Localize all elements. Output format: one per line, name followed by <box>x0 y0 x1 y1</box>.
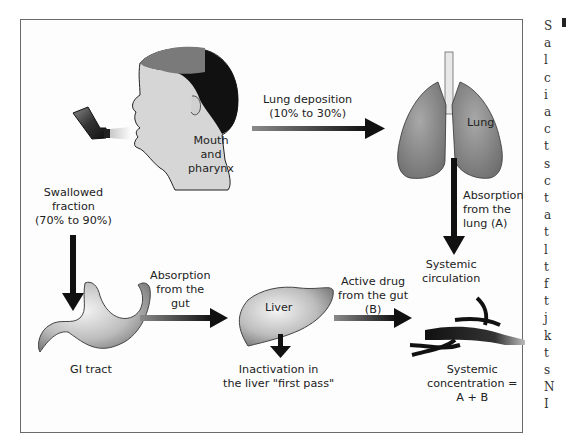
liver-icon <box>239 287 333 346</box>
stomach-icon <box>38 282 150 352</box>
liver-label: Liver <box>265 301 292 315</box>
systemic-circulation-label: Systemic circulation <box>422 258 480 286</box>
arrow-lung-deposition <box>252 118 385 139</box>
inactivation-label: Inactivation in the liver "first pass" <box>223 363 334 391</box>
arrow-absorption-gut <box>140 308 228 328</box>
blood-vessels-icon <box>410 298 525 355</box>
arrow-absorption-lung <box>443 158 465 255</box>
clipped-body-text: S a l c i a c t s c t a t l t f t j k t … <box>544 18 566 414</box>
mouth-pharynx-label: Mouth and pharynx <box>188 134 234 176</box>
inhaler-icon <box>73 107 132 140</box>
gi-tract-label: GI tract <box>70 363 112 377</box>
swallowed-fraction-label: Swallowed fraction (70% to 90%) <box>35 186 112 228</box>
lung-label: Lung <box>467 116 494 130</box>
absorption-lung-label: Absorption from the lung (A) <box>463 189 524 231</box>
arrow-swallowed <box>62 235 84 311</box>
systemic-concentration-label: Systemic concentration = A + B <box>427 363 517 405</box>
lung-deposition-label: Lung deposition (10% to 30%) <box>263 93 352 121</box>
active-drug-label: Active drug from the gut (B) <box>338 275 408 317</box>
absorption-gut-label: Absorption from the gut <box>150 269 211 311</box>
